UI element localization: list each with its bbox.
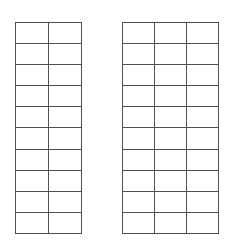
table-cell[interactable] [16, 212, 49, 233]
table-row [16, 86, 82, 107]
table-row [123, 107, 219, 128]
table-cell[interactable] [123, 44, 155, 65]
table-cell[interactable] [123, 23, 155, 44]
table-cell[interactable] [49, 23, 82, 44]
right-grid-table [122, 22, 219, 234]
table-cell[interactable] [155, 149, 187, 170]
table-cell[interactable] [155, 44, 187, 65]
left-grid-body [16, 23, 82, 234]
table-cell[interactable] [16, 107, 49, 128]
table-cell[interactable] [155, 170, 187, 191]
table-cell[interactable] [49, 86, 82, 107]
table-row [16, 149, 82, 170]
table-cell[interactable] [49, 128, 82, 149]
table-row [123, 44, 219, 65]
table-row [123, 170, 219, 191]
table-cell[interactable] [123, 212, 155, 233]
table-cell[interactable] [16, 86, 49, 107]
table-cell[interactable] [155, 212, 187, 233]
table-cell[interactable] [16, 44, 49, 65]
right-grid-body [123, 23, 219, 234]
table-row [123, 65, 219, 86]
table-row [123, 191, 219, 212]
table-row [123, 86, 219, 107]
table-cell[interactable] [16, 23, 49, 44]
table-cell[interactable] [155, 86, 187, 107]
table-row [16, 170, 82, 191]
table-cell[interactable] [49, 149, 82, 170]
table-cell[interactable] [187, 23, 219, 44]
table-row [16, 212, 82, 233]
table-cell[interactable] [123, 107, 155, 128]
table-cell[interactable] [16, 128, 49, 149]
table-row [16, 107, 82, 128]
page-canvas [0, 0, 234, 244]
table-cell[interactable] [187, 170, 219, 191]
table-cell[interactable] [123, 128, 155, 149]
table-cell[interactable] [49, 191, 82, 212]
table-cell[interactable] [123, 170, 155, 191]
table-cell[interactable] [16, 170, 49, 191]
table-row [123, 149, 219, 170]
table-cell[interactable] [123, 149, 155, 170]
table-cell[interactable] [187, 128, 219, 149]
table-row [16, 44, 82, 65]
table-cell[interactable] [16, 65, 49, 86]
table-cell[interactable] [49, 65, 82, 86]
table-cell[interactable] [123, 191, 155, 212]
table-cell[interactable] [123, 86, 155, 107]
table-row [16, 191, 82, 212]
table-cell[interactable] [155, 191, 187, 212]
table-row [16, 128, 82, 149]
table-cell[interactable] [49, 212, 82, 233]
table-row [16, 23, 82, 44]
table-cell[interactable] [49, 44, 82, 65]
table-cell[interactable] [123, 65, 155, 86]
table-cell[interactable] [49, 107, 82, 128]
table-cell[interactable] [16, 191, 49, 212]
table-cell[interactable] [155, 128, 187, 149]
table-cell[interactable] [155, 107, 187, 128]
table-row [16, 65, 82, 86]
table-cell[interactable] [187, 212, 219, 233]
table-cell[interactable] [155, 65, 187, 86]
table-row [123, 23, 219, 44]
left-grid-table [15, 22, 82, 234]
table-cell[interactable] [187, 191, 219, 212]
table-row [123, 128, 219, 149]
table-cell[interactable] [187, 65, 219, 86]
table-cell[interactable] [187, 44, 219, 65]
table-row [123, 212, 219, 233]
table-cell[interactable] [49, 170, 82, 191]
table-cell[interactable] [187, 149, 219, 170]
table-cell[interactable] [187, 86, 219, 107]
table-cell[interactable] [155, 23, 187, 44]
table-cell[interactable] [187, 107, 219, 128]
table-cell[interactable] [16, 149, 49, 170]
